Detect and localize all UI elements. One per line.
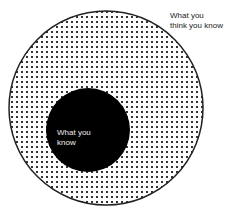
inner-circle-label: What you know: [57, 128, 91, 148]
knowledge-diagram: [0, 0, 232, 220]
outer-label-line1: What you: [170, 11, 223, 21]
outer-circle-label: What you think you know: [170, 11, 223, 31]
outer-label-line2: think you know: [170, 21, 223, 31]
inner-label-line1: What you: [57, 128, 91, 138]
inner-label-line2: know: [57, 138, 91, 148]
